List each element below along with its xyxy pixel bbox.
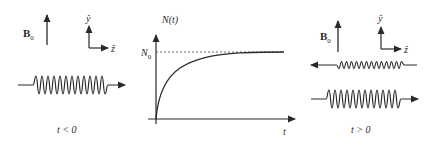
- n-of-t-curve: [156, 52, 284, 119]
- axis-y-label: ŷ: [377, 13, 383, 24]
- coordinate-axes-icon: [381, 27, 401, 49]
- n0-label: N0: [140, 47, 152, 61]
- y-axis-label: N(t): [161, 14, 179, 26]
- axis-z-label: ẑ: [110, 43, 115, 54]
- center-graph: N(t) N0 t: [140, 14, 295, 137]
- caption-after: t > 0: [351, 124, 371, 135]
- left-panel: B0 ŷ ẑ t < 0: [18, 13, 125, 135]
- caption-before: t < 0: [57, 124, 77, 135]
- incident-wave-icon: [18, 76, 125, 94]
- scattered-wave-icon: [311, 62, 417, 69]
- coordinate-axes-icon: [89, 26, 108, 48]
- b0-label: B0: [320, 30, 331, 45]
- transmitted-wave-icon: [311, 90, 418, 108]
- physics-figure: B0 ŷ ẑ t < 0 N(t) N0 t B0 ŷ ẑ: [0, 0, 439, 143]
- axis-z-label: ẑ: [403, 44, 408, 55]
- axis-y-label: ŷ: [85, 13, 91, 24]
- b0-label: B0: [23, 27, 34, 42]
- x-axis-label: t: [283, 126, 286, 137]
- right-panel: B0 ŷ ẑ t > 0: [311, 13, 418, 135]
